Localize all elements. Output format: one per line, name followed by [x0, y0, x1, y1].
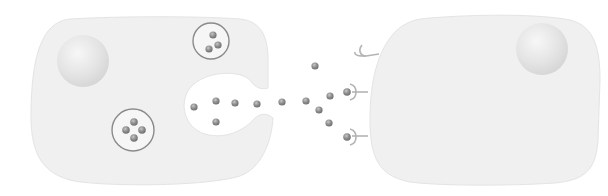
target-cell-nucleus	[516, 23, 568, 75]
signal-molecule	[212, 97, 219, 104]
signal-molecule	[325, 119, 332, 126]
bound-signal-molecule	[343, 133, 351, 141]
signal-molecule	[326, 92, 333, 99]
signal-molecule	[311, 62, 318, 69]
vesicle-upper	[193, 23, 229, 59]
signal-molecule	[315, 106, 322, 113]
signal-molecule	[278, 98, 285, 105]
signal-molecule	[214, 41, 221, 48]
signal-molecule	[130, 134, 138, 142]
signal-molecule	[231, 99, 238, 106]
cell-signaling-diagram	[0, 0, 608, 196]
signal-molecule	[190, 103, 197, 110]
signal-molecule	[205, 45, 212, 52]
secreting-cell-nucleus	[57, 35, 109, 87]
receptor-empty	[355, 45, 379, 56]
receptor-bound-1	[343, 84, 368, 100]
bound-signal-molecule	[343, 88, 351, 96]
free-molecules	[278, 62, 333, 126]
signal-molecule	[253, 100, 260, 107]
signal-molecule	[209, 31, 216, 38]
signal-molecule	[130, 118, 138, 126]
receptor-bound-2	[343, 129, 368, 145]
exocytosis-molecules	[190, 97, 260, 125]
signal-molecule	[122, 126, 130, 134]
signal-molecule	[212, 118, 219, 125]
signal-molecule	[138, 126, 146, 134]
vesicle-lower	[112, 109, 154, 151]
signal-molecule	[302, 97, 309, 104]
